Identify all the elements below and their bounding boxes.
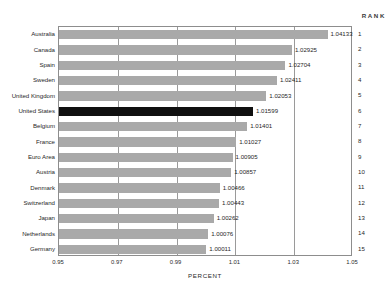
- category-label: Spain: [39, 61, 55, 69]
- rank-column-header: RANK: [362, 12, 386, 19]
- bar-row: Sweden1.02411: [59, 73, 351, 88]
- category-label: France: [36, 138, 55, 146]
- bar-row: United Kingdom1.02053: [59, 88, 351, 103]
- bar-value-label: 1.01401: [250, 122, 272, 130]
- rank-value: 3: [358, 57, 361, 72]
- bar-row: Canada1.02925: [59, 42, 351, 57]
- bar-row: Germany1.00011: [59, 242, 351, 257]
- bar-value-label: 1.01027: [239, 138, 261, 146]
- rank-value: 5: [358, 87, 361, 102]
- category-label: Sweden: [33, 76, 55, 84]
- bar-value-label: 1.00466: [223, 184, 245, 192]
- bar-row: Spain1.02704: [59, 58, 351, 73]
- x-tick-label: 0.97: [111, 259, 122, 265]
- bar-value-label: 1.02925: [295, 46, 317, 54]
- bar: [59, 45, 292, 54]
- rank-value: 9: [358, 149, 361, 164]
- rank-value: 4: [358, 72, 361, 87]
- rank-value: 1: [358, 26, 361, 41]
- rank-column: 123456789101112131415: [358, 26, 388, 256]
- category-label: Denmark: [30, 184, 55, 192]
- bar-value-label: 1.02411: [280, 76, 302, 84]
- x-axis-title: PERCENT: [58, 272, 352, 279]
- bar: [59, 199, 219, 208]
- bar: [59, 214, 214, 223]
- category-label: Netherlands: [22, 230, 55, 238]
- bar-value-label: 1.00076: [211, 230, 233, 238]
- bar-value-label: 1.00905: [236, 153, 258, 161]
- rank-value: 12: [358, 195, 365, 210]
- bar-row: Japan1.00262: [59, 211, 351, 226]
- category-label: Canada: [34, 46, 55, 54]
- bar-row: Denmark1.00466: [59, 180, 351, 195]
- rank-value: 8: [358, 133, 361, 148]
- bar: [59, 168, 231, 177]
- bar: [59, 183, 220, 192]
- plot-area: Australia1.04133Canada1.02925Spain1.0270…: [58, 26, 352, 256]
- bar: [59, 137, 236, 146]
- bar: [59, 107, 253, 116]
- category-label: Austria: [36, 168, 55, 176]
- category-label: Germany: [30, 245, 55, 253]
- rank-value: 2: [358, 41, 361, 56]
- bar-row: Australia1.04133: [59, 27, 351, 42]
- rank-value: 14: [358, 225, 365, 240]
- x-tick-label: 1.03: [287, 259, 298, 265]
- x-tick-label: 0.99: [170, 259, 181, 265]
- rank-value: 10: [358, 164, 365, 179]
- rank-value: 13: [358, 210, 365, 225]
- bar-row: United States1.01599: [59, 104, 351, 119]
- x-tick-label: 0.95: [52, 259, 63, 265]
- rank-value: 15: [358, 241, 365, 256]
- bar-row: Austria1.00857: [59, 165, 351, 180]
- bar-value-label: 1.00262: [217, 214, 239, 222]
- x-tick-label: 1.01: [229, 259, 240, 265]
- bar-row: Netherlands1.00076: [59, 226, 351, 241]
- bar: [59, 245, 206, 254]
- rank-value: 7: [358, 118, 361, 133]
- bar-row: France1.01027: [59, 134, 351, 149]
- category-label: Australia: [31, 30, 55, 38]
- bar-value-label: 1.00443: [222, 199, 244, 207]
- bar-value-label: 1.00011: [209, 245, 231, 253]
- bar: [59, 91, 266, 100]
- category-label: Belgium: [33, 122, 55, 130]
- bar-row: Euro Area1.00905: [59, 150, 351, 165]
- bar-value-label: 1.00857: [234, 168, 256, 176]
- bar-value-label: 1.02704: [288, 61, 310, 69]
- bar: [59, 61, 285, 70]
- bar-row: Switzerland1.00443: [59, 196, 351, 211]
- bar: [59, 76, 277, 85]
- bar-value-label: 1.01599: [256, 107, 278, 115]
- bar-value-label: 1.02053: [269, 92, 291, 100]
- bar: [59, 229, 208, 238]
- bar: [59, 30, 328, 39]
- bar-row: Belgium1.01401: [59, 119, 351, 134]
- category-label: Euro Area: [28, 153, 55, 161]
- bar-value-label: 1.04133: [331, 30, 353, 38]
- x-tick-label: 1.05: [346, 259, 357, 265]
- category-label: Switzerland: [24, 199, 56, 207]
- bar: [59, 153, 233, 162]
- category-label: United Kingdom: [12, 92, 55, 100]
- category-label: United States: [18, 107, 55, 115]
- rank-value: 11: [358, 179, 364, 194]
- rank-value: 6: [358, 103, 361, 118]
- bar: [59, 122, 247, 131]
- category-label: Japan: [38, 214, 55, 222]
